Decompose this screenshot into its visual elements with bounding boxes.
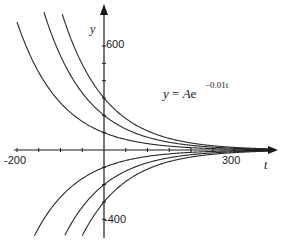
y-tick-label-max: 600 bbox=[106, 38, 124, 50]
x-axis-arrow-icon bbox=[268, 146, 278, 154]
x-tick-label-max: 300 bbox=[222, 154, 240, 166]
x-tick-label-min: -200 bbox=[4, 154, 26, 166]
equation-equals: = bbox=[169, 86, 183, 101]
equation-label: y = Ae −0.01t bbox=[161, 80, 229, 101]
curve-A-neg200 bbox=[65, 151, 274, 236]
solution-curves bbox=[17, 12, 274, 236]
y-axis-arrow-icon bbox=[100, 4, 108, 15]
svg-text:y = Ae: y = Ae bbox=[161, 86, 197, 101]
exponential-decay-chart: -200 300 600 -400 t y y = Ae −0.01t bbox=[0, 0, 289, 246]
y-axis-label: y bbox=[89, 22, 96, 36]
y-tick-label-min: -400 bbox=[104, 213, 126, 225]
x-axis-label: t bbox=[264, 158, 268, 172]
equation-coefficient: A bbox=[182, 86, 191, 101]
equation-base: e bbox=[191, 86, 197, 101]
tick-marks bbox=[17, 46, 256, 219]
equation-exponent: −0.01t bbox=[205, 80, 229, 90]
curve-A-200 bbox=[44, 12, 274, 149]
